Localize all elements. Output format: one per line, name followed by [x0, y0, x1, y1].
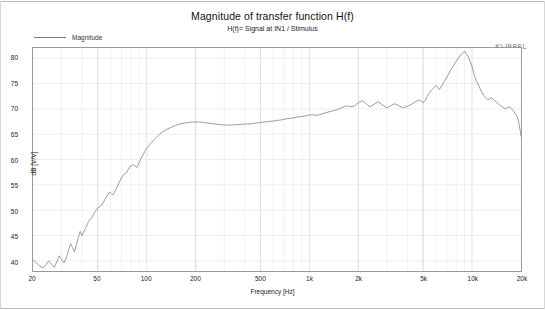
- x-tick-label: 100: [141, 275, 152, 282]
- legend-item-magnitude: Magnitude: [72, 34, 102, 41]
- y-tick-label: 70: [11, 105, 18, 112]
- x-tick-label: 5k: [420, 275, 427, 282]
- x-tick-label: 50: [93, 275, 100, 282]
- chart-title: Magnitude of transfer function H(f): [0, 10, 545, 22]
- y-axis-label: dB [V/V]: [30, 119, 37, 209]
- x-axis-label: Frequency [Hz]: [0, 288, 545, 295]
- x-tick-label: 2k: [355, 275, 362, 282]
- plot-area: [32, 47, 522, 272]
- y-tick-label: 75: [11, 79, 18, 86]
- chart-legend: Magnitude: [34, 34, 102, 41]
- x-tick-label: 500: [255, 275, 266, 282]
- x-tick-label: 200: [190, 275, 201, 282]
- y-tick-label: 45: [11, 233, 18, 240]
- window-border-left: [0, 1, 1, 309]
- window-border-bottom: [0, 308, 545, 309]
- y-tick-label: 55: [11, 182, 18, 189]
- magnitude-curve: [33, 48, 521, 271]
- x-tick-label: 1k: [306, 275, 313, 282]
- y-tick-label: 50: [11, 207, 18, 214]
- x-tick-label: 20: [28, 275, 35, 282]
- x-tick-label: 20k: [517, 275, 527, 282]
- chart-page: Magnitude of transfer function H(f) H(f)…: [0, 0, 545, 310]
- y-tick-label: 80: [11, 54, 18, 61]
- chart-subtitle: H(f)= Signal at IN1 / Stimulus: [0, 25, 545, 32]
- y-tick-label: 65: [11, 130, 18, 137]
- x-tick-label: 10k: [468, 275, 478, 282]
- window-border-top: [0, 1, 545, 2]
- legend-line-icon: [34, 37, 66, 38]
- y-tick-label: 60: [11, 156, 18, 163]
- y-tick-label: 40: [11, 258, 18, 265]
